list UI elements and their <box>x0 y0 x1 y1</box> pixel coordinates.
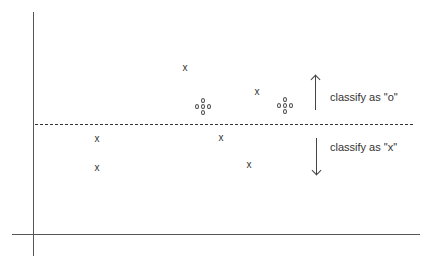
o-point <box>201 98 205 103</box>
o-cluster <box>193 97 213 117</box>
region-label-o: classify as "o" <box>330 91 398 103</box>
region-label-x: classify as "x" <box>330 141 397 153</box>
arrowhead-down-icon <box>312 166 322 176</box>
x-point: x <box>255 87 260 97</box>
x-point: x <box>219 133 224 143</box>
classification-diagram: x x x x x x classify as "o" classify as … <box>0 0 434 267</box>
x-point: x <box>183 63 188 73</box>
o-point <box>207 104 211 109</box>
x-axis <box>12 234 420 235</box>
o-point <box>201 110 205 115</box>
o-point <box>283 103 287 108</box>
x-point: x <box>95 134 100 144</box>
o-point <box>283 109 287 114</box>
arrowhead-up-icon <box>311 75 321 85</box>
o-point <box>277 103 281 108</box>
o-cluster <box>275 96 295 116</box>
x-point: x <box>247 160 252 170</box>
o-point <box>283 97 287 102</box>
o-point <box>195 104 199 109</box>
o-point <box>201 104 205 109</box>
o-point <box>289 103 293 108</box>
x-point: x <box>95 163 100 173</box>
decision-boundary-dashed-line <box>35 124 413 125</box>
y-axis <box>33 12 34 256</box>
